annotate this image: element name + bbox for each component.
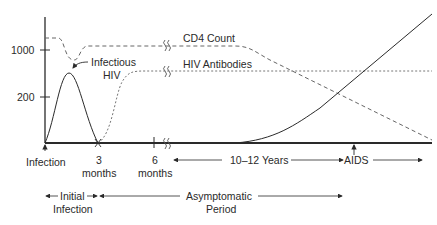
hiv-antibodies-line [98,71,432,143]
x-label-aids: AIDS [344,154,369,166]
initial-infection-label-1: Initial [60,190,85,202]
y-tick-label-200: 200 [17,91,35,103]
hiv-antibodies-label: HIV Antibodies [183,58,252,70]
cd4-count-line [45,38,432,140]
initial-infection-label-2: Infection [53,203,93,215]
infectious-hiv-line [45,73,98,143]
y-tick-label-1000: 1000 [11,44,34,56]
x-label-3-months: months [82,167,116,179]
infectious-hiv-pointer [73,62,88,68]
x-label-3: 3 [92,154,106,166]
axis-break-icon [164,40,171,149]
x-label-infection: Infection [26,156,66,168]
infectious-hiv-label-1: Infectious [91,56,136,68]
x-label-10-12-years: 10–12 Years [230,154,288,166]
x-label-6: 6 [148,154,162,166]
late-viral-line [235,14,432,143]
x-label-6-months: months [138,167,172,179]
asymptomatic-label-2: Period [206,203,236,215]
asymptomatic-label-1: Asymptomatic [186,190,252,202]
cd4-count-label: CD4 Count [183,32,235,44]
infectious-hiv-label-2: HIV [103,69,121,81]
